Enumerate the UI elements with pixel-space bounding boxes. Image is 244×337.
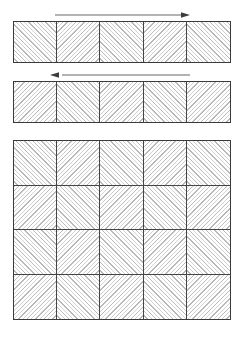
strip1-cell-4	[144, 22, 187, 62]
top-strip-cells	[13, 21, 231, 63]
strip1-cell-3	[100, 22, 143, 62]
grid-cell-r3c3	[100, 230, 143, 275]
grid-cell-r4c2	[57, 275, 100, 320]
grid-cell-r3c1	[14, 230, 57, 275]
second-strip-cells	[13, 81, 231, 123]
grid-cell-r1c1	[14, 141, 57, 186]
grid-cell-r4c5	[187, 275, 230, 320]
grid-cell-r2c3	[100, 186, 143, 231]
top-strip-panel	[13, 21, 231, 63]
grid-cell-r1c2	[57, 141, 100, 186]
strip2-cell-4	[144, 82, 187, 122]
main-grid-cells	[13, 140, 231, 320]
direction-arrow-right-icon	[55, 11, 190, 20]
strip2-cell-1	[14, 82, 57, 122]
strip2-cell-5	[187, 82, 230, 122]
main-grid-panel	[13, 140, 231, 320]
grid-cell-r2c2	[57, 186, 100, 231]
grid-cell-r2c1	[14, 186, 57, 231]
grid-cell-r3c4	[144, 230, 187, 275]
grid-cell-r4c1	[14, 275, 57, 320]
grid-cell-r1c5	[187, 141, 230, 186]
grid-cell-r3c5	[187, 230, 230, 275]
grid-cell-r4c4	[144, 275, 187, 320]
direction-arrow-left-icon	[50, 71, 190, 80]
grid-cell-r1c4	[144, 141, 187, 186]
grid-cell-r2c4	[144, 186, 187, 231]
strip1-cell-2	[57, 22, 100, 62]
strip1-cell-5	[187, 22, 230, 62]
grid-cell-r2c5	[187, 186, 230, 231]
second-strip-panel	[13, 81, 231, 123]
grid-cell-r1c3	[100, 141, 143, 186]
diagram-page	[0, 0, 244, 337]
strip2-cell-2	[57, 82, 100, 122]
grid-cell-r4c3	[100, 275, 143, 320]
grid-cell-r3c2	[57, 230, 100, 275]
strip1-cell-1	[14, 22, 57, 62]
strip2-cell-3	[100, 82, 143, 122]
